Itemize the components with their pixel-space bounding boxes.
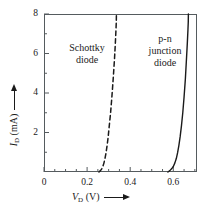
x-tick-label: 0.2 bbox=[81, 178, 93, 188]
y-axis-title-text: ID (mA) bbox=[9, 114, 19, 147]
x-axis-title: VD (V) bbox=[72, 192, 130, 202]
x-axis-unit: (V) bbox=[86, 191, 100, 202]
x-axis-title-text: VD (V) bbox=[72, 192, 100, 202]
x-tick-label: 0.6 bbox=[167, 178, 179, 188]
x-axis-subscript: D bbox=[78, 196, 83, 204]
y-axis-unit: (mA) bbox=[8, 114, 19, 136]
y-tick-label: 4 bbox=[18, 88, 38, 98]
series-label-pn-junction: p-n junction diode bbox=[140, 33, 190, 68]
y-axis-symbol: I bbox=[8, 143, 19, 146]
y-tick-label: 8 bbox=[18, 9, 38, 19]
y-axis-title: ID (mA) bbox=[9, 72, 19, 158]
series-label-schottky: Schottky diode bbox=[58, 42, 116, 66]
y-tick-label: 2 bbox=[18, 128, 38, 138]
y-tick-label: 6 bbox=[18, 49, 38, 59]
x-tick-label: 0.4 bbox=[124, 178, 136, 188]
x-axis-arrow-icon bbox=[104, 194, 130, 201]
diode-iv-chart: 2468 00.20.40.6 VD (V) ID (mA) Schottky … bbox=[0, 0, 215, 222]
y-axis-arrow-icon bbox=[11, 84, 18, 110]
x-tick-label: 0 bbox=[42, 178, 47, 188]
y-axis-subscript: D bbox=[13, 138, 21, 143]
